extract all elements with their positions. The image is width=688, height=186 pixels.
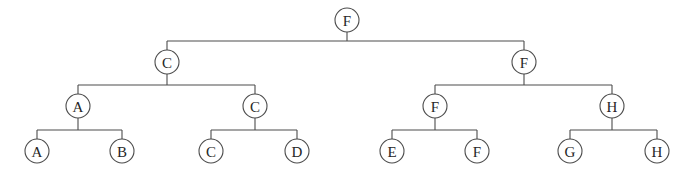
node-label: F	[431, 99, 439, 115]
tree-node-n14[interactable]: H	[645, 139, 669, 163]
tree-node-n0[interactable]: F	[335, 8, 359, 32]
tree-node-n12[interactable]: F	[465, 139, 489, 163]
connector-n3	[37, 118, 122, 139]
connector-n1	[78, 74, 255, 94]
connector-n6	[570, 118, 657, 139]
tree-node-n5[interactable]: F	[423, 94, 447, 118]
node-label: A	[73, 99, 84, 115]
node-label: F	[520, 55, 528, 71]
tree-diagram: FCFACFHABCDEFGH	[0, 0, 688, 186]
node-label: H	[607, 99, 618, 115]
connector-n5	[392, 118, 477, 139]
edges-group	[37, 32, 657, 139]
connector-n0	[167, 32, 524, 50]
connector-n2	[435, 74, 612, 94]
tree-node-n4[interactable]: C	[243, 94, 267, 118]
tree-node-n7[interactable]: A	[25, 139, 49, 163]
node-label: C	[206, 144, 216, 160]
tree-node-n6[interactable]: H	[600, 94, 624, 118]
node-label: A	[32, 144, 43, 160]
node-label: C	[250, 99, 260, 115]
tree-node-n1[interactable]: C	[155, 50, 179, 74]
tree-svg-canvas: FCFACFHABCDEFGH	[0, 0, 688, 186]
node-label: G	[565, 144, 576, 160]
node-label: H	[652, 144, 663, 160]
tree-node-n8[interactable]: B	[110, 139, 134, 163]
node-label: D	[292, 144, 303, 160]
node-label: F	[343, 13, 351, 29]
tree-node-n2[interactable]: F	[512, 50, 536, 74]
connector-n4	[211, 118, 297, 139]
node-label: F	[473, 144, 481, 160]
tree-node-n10[interactable]: D	[285, 139, 309, 163]
tree-node-n3[interactable]: A	[66, 94, 90, 118]
node-label: C	[162, 55, 172, 71]
tree-node-n13[interactable]: G	[558, 139, 582, 163]
node-label: B	[117, 144, 127, 160]
tree-node-n9[interactable]: C	[199, 139, 223, 163]
tree-node-n11[interactable]: E	[380, 139, 404, 163]
node-label: E	[387, 144, 396, 160]
